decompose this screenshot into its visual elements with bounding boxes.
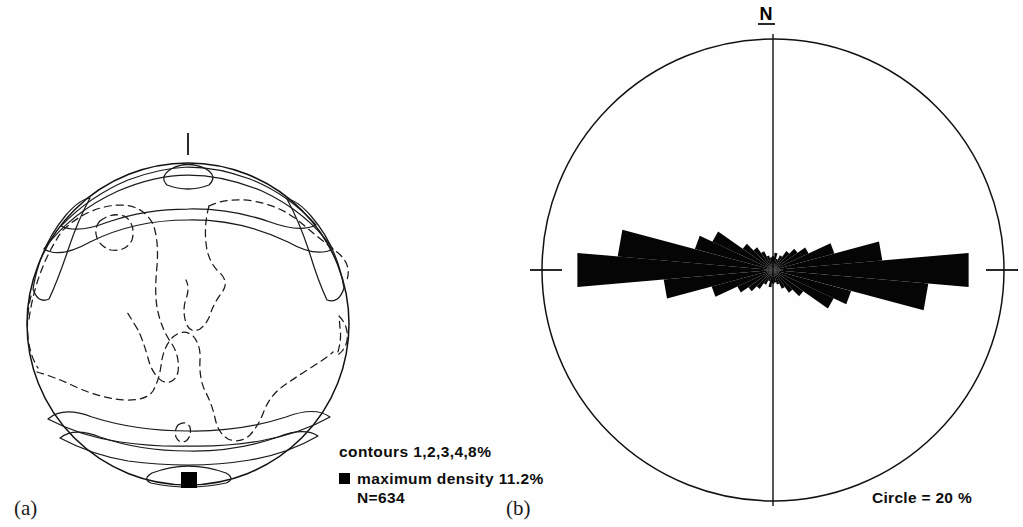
figure-svg: contours 1,2,3,4,8% maximum density 11.2… bbox=[0, 0, 1023, 527]
figure-root: contours 1,2,3,4,8% maximum density 11.2… bbox=[0, 0, 1023, 527]
contour-dashed-south-lobe bbox=[37, 332, 333, 441]
panel-a-stereonet: contours 1,2,3,4,8% maximum density 11.2… bbox=[14, 133, 544, 520]
contour-dashed-east-edge bbox=[337, 316, 347, 355]
stereonet-contours-annotation: contours 1,2,3,4,8% bbox=[339, 443, 491, 460]
legend-filled-square-icon bbox=[339, 473, 350, 484]
stereonet-maximum-density-annotation: maximum density 11.2% bbox=[357, 470, 544, 487]
stereonet-maximum-density-marker bbox=[181, 472, 197, 488]
panel-b-rose: N Circle = 20 % (b) bbox=[506, 4, 1018, 520]
contour-dashed-small-blob-south bbox=[175, 423, 190, 442]
stereonet-primitive-circle bbox=[27, 163, 349, 485]
contour-south-3pct bbox=[48, 412, 330, 447]
contour-dashed-west-edge bbox=[27, 296, 38, 368]
rose-north-label: N bbox=[760, 4, 773, 24]
contour-nw-sliver bbox=[33, 198, 90, 300]
rose-scale-caption: Circle = 20 % bbox=[872, 489, 972, 506]
contour-dashed-central-north-lobe bbox=[184, 206, 225, 331]
panel-a-label: (a) bbox=[14, 496, 37, 520]
stereonet-n-annotation: N=634 bbox=[357, 489, 405, 506]
contour-ne-sliver bbox=[287, 199, 344, 301]
panel-b-label: (b) bbox=[506, 496, 531, 520]
